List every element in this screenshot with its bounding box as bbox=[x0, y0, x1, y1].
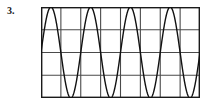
question-number: 3. bbox=[7, 5, 15, 17]
waveform-graph bbox=[41, 7, 200, 98]
figure-panel: 3. bbox=[0, 0, 209, 105]
oscilloscope-waveform-grid bbox=[41, 7, 200, 98]
